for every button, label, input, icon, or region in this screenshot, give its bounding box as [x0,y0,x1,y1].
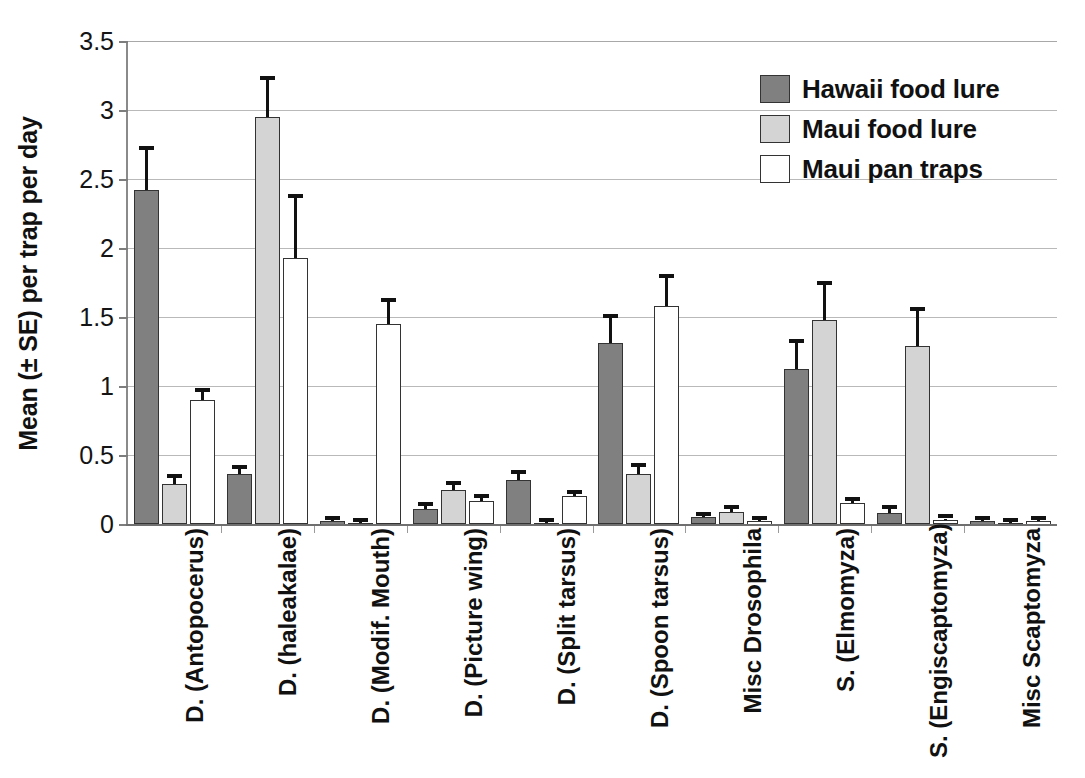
error-bar [424,506,427,509]
error-bar [517,474,520,480]
error-bar [730,509,733,512]
y-tick-label: 3.5 [58,29,114,54]
bar [840,503,865,524]
error-bar [573,494,576,497]
bar-group [407,41,500,524]
y-axis-title: Mean (± SE) per trap per day [6,40,50,526]
bar [654,306,679,524]
bar [719,512,744,524]
error-bar [665,278,668,306]
bar [376,324,401,524]
x-tick-label: D. (haleakalae) [276,528,300,758]
chart-legend: Hawaii food lureMaui food lureMaui pan t… [760,72,1000,186]
caption-remnant [20,752,920,766]
bar [413,509,438,524]
error-bar-cap [381,298,396,302]
error-bar-cap [474,494,489,498]
bar [190,400,215,524]
legend-item-label: Maui food lure [802,114,977,145]
legend-item: Maui pan traps [760,152,1000,186]
error-bar [1009,522,1012,523]
bar [227,474,252,524]
y-tick-label: 0 [58,512,114,537]
y-tick-mark [119,386,128,388]
bar [562,496,587,524]
bar [283,258,308,524]
bar [162,484,187,524]
bar-group [500,41,593,524]
bar [877,513,902,524]
error-bar [359,522,362,523]
error-bar-cap [631,463,646,467]
error-bar-cap [910,307,925,311]
error-bar-cap [696,512,711,516]
error-bar-cap [817,281,832,285]
error-bar-cap [260,76,275,80]
light-gray-swatch [760,115,790,143]
error-bar [795,343,798,369]
x-tick-label: D. (Split tarsus) [555,528,579,758]
bar [506,480,531,524]
bar-group [593,41,686,524]
white-swatch [760,155,790,183]
error-bar [637,467,640,474]
y-tick-label: 2 [58,236,114,261]
x-tick-label: Misc Scaptomyza [1020,528,1044,758]
bar [812,320,837,524]
y-tick-label: 1.5 [58,305,114,330]
error-bar-cap [167,474,182,478]
bar [255,117,280,524]
error-bar [851,501,854,504]
bar-group [221,41,314,524]
x-tick-label: D. (Picture wing) [462,528,486,758]
legend-item: Maui food lure [760,112,1000,146]
bar [626,474,651,524]
error-bar [480,498,483,501]
bar [598,343,623,524]
error-bar [981,520,984,521]
error-bar-cap [975,516,990,520]
error-bar [201,392,204,400]
y-axis-tick-labels: 00.511.522.533.5 [52,0,114,778]
error-bar-cap [446,481,461,485]
error-bar-cap [418,502,433,506]
legend-item: Hawaii food lure [760,72,1000,106]
error-bar-cap [1031,516,1046,520]
bar-group [128,41,221,524]
error-bar-cap [938,514,953,518]
error-bar [238,469,241,475]
x-axis-tick-labels: D. (Antopocerus)D. (haleakalae)D. (Modif… [126,528,1055,768]
x-tick-label: D. (Spoon tarsus) [648,528,672,758]
error-bar-cap [288,194,303,198]
x-tick-label: Misc Drosophila [741,528,765,758]
y-tick-mark [119,110,128,112]
error-bar-cap [659,274,674,278]
bar [691,517,716,524]
x-tick-label: D. (Antopocerus) [183,528,207,758]
error-bar-cap [567,490,582,494]
bar-group [314,41,407,524]
y-tick-label: 1 [58,374,114,399]
error-bar [609,318,612,343]
x-tick-label: S. (Engiscaptomyza) [927,528,951,758]
error-bar [916,311,919,346]
error-bar-cap [539,518,554,522]
bar [784,369,809,524]
y-tick-mark [119,317,128,319]
bar [469,501,494,524]
error-bar [452,485,455,489]
y-tick-label: 2.5 [58,167,114,192]
error-bar [944,519,947,520]
error-bar [545,522,548,523]
error-bar-cap [1003,518,1018,522]
x-tick-label: D. (Modif. Mouth) [369,528,393,758]
error-bar [387,302,390,324]
dark-gray-swatch [760,75,790,103]
error-bar-cap [353,518,368,522]
error-bar [888,509,891,513]
error-bar [1037,520,1040,521]
y-tick-label: 3 [58,98,114,123]
error-bar [294,198,297,257]
error-bar [266,80,269,117]
error-bar [173,478,176,484]
